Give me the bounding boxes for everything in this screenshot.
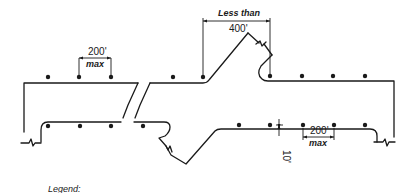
upper-roadway-right	[150, 33, 394, 137]
light-standard	[46, 124, 50, 128]
light-standard	[78, 124, 82, 128]
dimension-top-left: 200' max	[79, 46, 111, 75]
light-standard	[363, 74, 367, 78]
light-standard	[268, 74, 272, 78]
top-left-spacing-qualifier: max	[86, 59, 105, 69]
light-standard	[331, 74, 335, 78]
light-standard	[201, 75, 205, 79]
light-standard	[141, 124, 145, 128]
light-standard	[301, 123, 305, 127]
roadway-lighting-diagram: 200' max Less than 400' 200' max 10' Leg…	[0, 0, 415, 193]
light-standard	[46, 75, 50, 79]
light-standard	[109, 124, 113, 128]
legend-title: Legend:	[48, 184, 81, 193]
light-standard	[237, 123, 241, 127]
light-standard	[363, 123, 367, 127]
bottom-right-spacing-qualifier: max	[309, 138, 328, 148]
bottom-right-spacing-value: 200'	[310, 125, 329, 136]
top-left-spacing-value: 200'	[88, 46, 107, 57]
offset-value: 10'	[281, 150, 292, 163]
light-standard	[332, 123, 336, 127]
light-standard	[77, 75, 81, 79]
light-standard	[171, 75, 175, 79]
light-standard	[300, 74, 304, 78]
light-standard	[268, 123, 272, 127]
break-symbol-bottom-left	[21, 139, 41, 146]
dimension-offset: 10'	[276, 119, 292, 163]
upper-roadway-lights	[46, 74, 367, 79]
crossover-spacing-value: 400'	[229, 23, 248, 34]
light-standard	[109, 75, 113, 79]
crossover-spacing-qualifier: Less than	[218, 8, 261, 18]
